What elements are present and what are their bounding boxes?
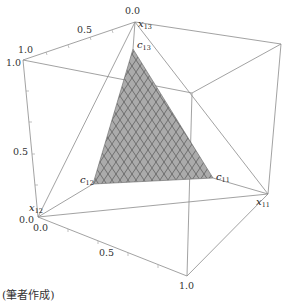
tick-left-mid: 0.5 — [13, 146, 28, 157]
tick-bottom-mid: 0.5 — [99, 247, 114, 258]
simplex-cube-diagram: 0.0 0.5 1.0 1.0 0.5 0.0 0.0 0.5 1.0 x13 … — [0, 0, 290, 306]
simplex-triangle — [93, 49, 213, 184]
caption: (筆者作成) — [2, 286, 55, 302]
tick-bottom-end: 1.0 — [179, 280, 194, 291]
vertex-label-c13: c13 — [137, 39, 151, 52]
vertex-label-c12: c12 — [80, 174, 94, 187]
axis-label-x11: x11 — [256, 196, 270, 209]
tick-bottom-origin: 0.0 — [33, 222, 48, 233]
tick-top-mid: 0.5 — [77, 24, 92, 35]
tick-left-end: 1.0 — [6, 57, 21, 68]
vertex-label-c11: c11 — [216, 171, 230, 184]
tick-top-end: 1.0 — [18, 44, 33, 55]
tick-left-origin: 0.0 — [19, 214, 34, 225]
tick-top-origin: 0.0 — [125, 5, 140, 16]
